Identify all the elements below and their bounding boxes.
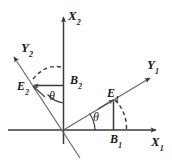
vector-e1-label: E1: [107, 87, 119, 102]
x2-axis-label-subscript: 2: [77, 18, 81, 27]
y2-axis-label: Y2: [21, 41, 33, 58]
x1-axis-label: X1: [151, 135, 164, 152]
angle-theta-upper-left-label: θ: [49, 90, 55, 102]
component-b1-label-text: B: [110, 132, 118, 146]
y2-axis-label-subscript: 2: [29, 50, 33, 59]
x2-axis-label-text: X: [68, 8, 77, 23]
x2-axis-label: X2: [68, 9, 81, 26]
component-b1-label-subscript: 1: [118, 141, 122, 150]
vector-e2-label: E2: [17, 80, 29, 95]
vector-e2-label-subscript: 2: [25, 88, 29, 97]
dashed-arc-lower-right: [115, 100, 127, 130]
vector-e1-label-subscript: 1: [115, 95, 119, 104]
component-b2-label-subscript: 2: [78, 82, 82, 91]
vector-e2-label-text: E: [17, 79, 25, 93]
y2-axis-label-text: Y: [21, 40, 29, 55]
y1-axis-label: Y1: [147, 58, 159, 75]
component-b1-label: B1: [110, 133, 122, 148]
x1-axis-label-text: X: [151, 134, 160, 149]
vector-diagram-figure: X2 X1 Y1 Y2 E1 E2 B1 B2 θ θ: [0, 0, 172, 160]
dashed-arc-upper-left: [33, 67, 63, 79]
component-b2-label-text: B: [70, 73, 78, 87]
y1-axis-label-text: Y: [147, 57, 155, 72]
vector-e1-label-text: E: [107, 86, 115, 100]
component-b2-label: B2: [70, 74, 82, 89]
x1-axis-label-subscript: 1: [160, 144, 164, 153]
angle-theta-lower-right-label: θ: [93, 111, 99, 123]
y1-axis-label-subscript: 1: [155, 67, 159, 76]
